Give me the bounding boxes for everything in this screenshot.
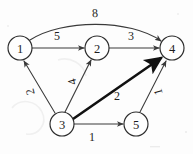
edge-weight-3-2: 4: [64, 77, 79, 86]
edge-weight-3-1: 2: [22, 87, 37, 96]
node-1-label: 1: [17, 42, 23, 56]
node-4[interactable]: 4: [160, 36, 184, 60]
node-3[interactable]: 3: [50, 112, 74, 136]
edge-weight-3-5: 1: [89, 130, 95, 144]
edge-weight-1-2: 5: [54, 29, 60, 43]
edge-weight-1-4: 8: [92, 6, 99, 20]
edge-3-to-1: [24, 61, 55, 113]
node-3-label: 3: [59, 118, 65, 132]
node-5-label: 5: [133, 118, 139, 132]
node-4-label: 4: [169, 42, 176, 56]
edge-weight-2-4: 3: [128, 29, 134, 43]
edge-weight-3-4: 2: [114, 89, 120, 103]
node-2[interactable]: 2: [85, 36, 109, 60]
node-1[interactable]: 1: [8, 36, 32, 60]
node-2-label: 2: [94, 42, 100, 56]
node-5[interactable]: 5: [124, 112, 148, 136]
diagram-canvas: 8 5 3 2 4 2 1 1 1 2 3 4 5: [0, 0, 193, 154]
edge-weight-5-4: 1: [150, 87, 165, 96]
paper-texture: [7, 13, 187, 147]
graph-svg: 8 5 3 2 4 2 1 1 1 2 3 4 5: [0, 0, 193, 154]
